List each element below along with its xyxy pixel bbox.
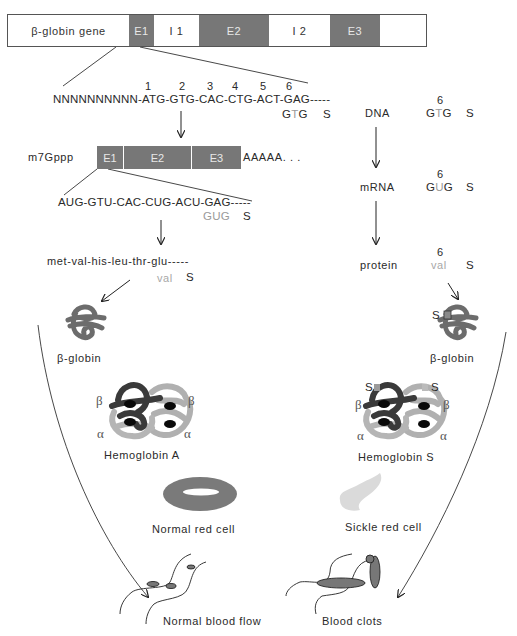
summary-protein-variant: S	[466, 259, 474, 271]
blood-clots-icon	[286, 554, 380, 614]
hba-alpha-left: α	[97, 426, 104, 442]
codon-number-2: 2	[179, 80, 186, 92]
mrna-mutant-codon: GUG	[203, 210, 230, 222]
mrna-exon-2: E2	[123, 146, 191, 169]
zoom-line-right	[140, 47, 308, 83]
hbs-marker-left: S	[365, 381, 373, 393]
hbs-alpha-right: α	[440, 428, 447, 444]
sickle-globin-label: β-globin	[430, 352, 474, 364]
hbs-beta-left: β	[355, 397, 362, 413]
gene-exon-1: E1	[129, 15, 154, 46]
summary-dna-variant: S	[466, 107, 474, 119]
mrna-exon-bar: E1 E2 E3	[97, 146, 241, 169]
normal-red-cell-icon	[163, 477, 237, 511]
hba-beta-right: β	[188, 393, 195, 409]
hemoglobin-a-icon	[112, 385, 190, 436]
hba-beta-left: β	[96, 393, 103, 409]
summary-dna-codon: GTG	[426, 107, 452, 119]
hba-alpha-right: α	[184, 426, 191, 442]
summary-dna-label: DNA	[365, 107, 390, 119]
hemoglobin-a-label: Hemoglobin A	[104, 449, 180, 461]
codon-number-3: 3	[207, 80, 214, 92]
arrow-protein-to-globin	[102, 280, 130, 301]
sickle-red-cell-label: Sickle red cell	[345, 521, 422, 533]
zoom-line-left	[63, 47, 116, 86]
gene-intron-2: I 2	[269, 15, 330, 46]
codon-number-5: 5	[260, 80, 267, 92]
arrow-protein-to-globin-right	[448, 283, 458, 299]
curve-arrow-sickle	[398, 332, 506, 597]
protein-mutant-label: S	[186, 271, 194, 283]
gene-intron-1: I 1	[154, 15, 199, 46]
dna-sequence: NNNNNNNNNN-ATG-GTG-CAC-CTG-ACT-GAG-----	[53, 93, 330, 105]
summary-mrna-codon: GUG	[426, 181, 453, 193]
protein-mutant-residue: val	[157, 272, 173, 284]
summary-protein-residue: val	[431, 259, 447, 271]
sickle-globin-marker: S	[432, 309, 440, 321]
mrna-zoom-line-left	[64, 169, 97, 195]
mrna-mutant-label: S	[243, 210, 251, 222]
summary-mrna-variant: S	[466, 181, 474, 193]
hbs-marker-right: S	[431, 381, 439, 393]
poly-a-tail: AAAAA. . .	[243, 151, 301, 163]
dna-mutant-label: S	[323, 108, 331, 120]
curve-arrow-normal	[38, 325, 148, 597]
dna-mutant-codon: GTG	[282, 108, 308, 120]
codon-number-4: 4	[232, 80, 239, 92]
gene-exon-3: E3	[330, 15, 380, 46]
sickle-red-cell-icon	[340, 473, 382, 511]
summary-dna-position: 6	[437, 94, 444, 106]
mrna-cap: m7Gppp	[28, 151, 74, 163]
beta-globin-gene-bar: β-globin gene E1 I 1 E2 I 2 E3	[7, 14, 427, 47]
summary-protein-position: 6	[437, 246, 444, 258]
mrna-exon-3: E3	[191, 146, 241, 169]
mrna-exon-1: E1	[97, 146, 123, 169]
normal-globin-label: β-globin	[57, 352, 101, 364]
hbs-beta-right: β	[443, 397, 450, 413]
beta-globin-normal-icon	[68, 307, 104, 338]
normal-blood-flow-label: Normal blood flow	[163, 615, 261, 627]
gene-label: β-globin gene	[8, 15, 129, 46]
hbs-alpha-left: α	[357, 428, 364, 444]
protein-sequence: met-val-his-leu-thr-glu-----	[47, 255, 189, 267]
normal-blood-flow-icon	[120, 554, 206, 624]
codon-number-1: 1	[145, 80, 152, 92]
beta-globin-sickle-icon	[440, 307, 476, 338]
blood-clots-label: Blood clots	[322, 615, 382, 627]
mrna-sequence: AUG-GTU-CAC-CUG-ACU-GAG-----	[58, 196, 251, 208]
gene-exon-2: E2	[199, 15, 269, 46]
hemoglobin-s-label: Hemoglobin S	[358, 451, 434, 463]
summary-mrna-label: mRNA	[360, 181, 395, 193]
summary-mrna-position: 6	[437, 168, 444, 180]
codon-number-6: 6	[286, 80, 293, 92]
gene-tail	[380, 15, 426, 46]
normal-red-cell-label: Normal red cell	[152, 523, 235, 535]
summary-protein-label: protein	[360, 259, 398, 271]
